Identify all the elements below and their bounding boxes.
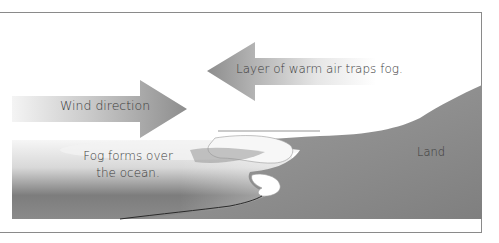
warm-air-layer-label: Layer of warm air traps fog. xyxy=(236,62,403,76)
wind-direction-label: Wind direction xyxy=(60,98,150,113)
fog-diagram-illustration xyxy=(0,0,499,243)
land-label: Land xyxy=(417,145,445,159)
fog-forms-label: Fog forms over the ocean. xyxy=(78,148,178,182)
